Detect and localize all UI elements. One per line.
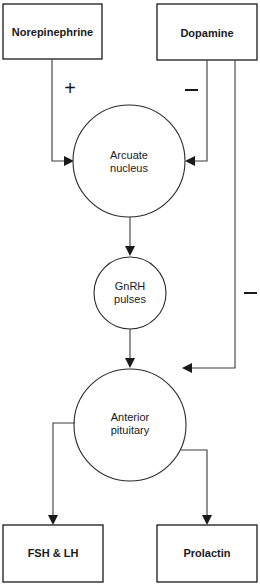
gnrh-pulses-node: GnRH pulses bbox=[94, 257, 166, 329]
norepinephrine-box: Norepinephrine bbox=[3, 4, 102, 59]
minus-sign-text: − bbox=[185, 78, 197, 100]
hormone-regulation-diagram: Norepinephrine Dopamine + − − Arcuate nu… bbox=[0, 0, 260, 586]
edge-dopamine-pituitary: − bbox=[182, 60, 257, 373]
norepinephrine-label: Norepinephrine bbox=[12, 26, 93, 38]
arrowhead-icon bbox=[185, 156, 195, 166]
dopamine-label: Dopamine bbox=[180, 27, 233, 39]
prolactin-label: Prolactin bbox=[183, 547, 230, 559]
arrowhead-icon bbox=[48, 515, 58, 525]
arrowhead-icon bbox=[125, 246, 135, 256]
edge-pituitary-prolactin bbox=[181, 450, 212, 525]
arcuate-nucleus-node: Arcuate nucleus bbox=[73, 105, 185, 217]
edge-arcuate-gnrh bbox=[125, 217, 135, 256]
dopamine-box: Dopamine bbox=[157, 4, 257, 60]
plus-sign: + bbox=[64, 77, 76, 99]
arrowhead-icon bbox=[182, 363, 192, 373]
anterior-label-line2: pituitary bbox=[111, 424, 150, 436]
edge-dopamine-arcuate: − bbox=[185, 60, 207, 166]
prolactin-box: Prolactin bbox=[157, 525, 257, 582]
anterior-label-line1: Anterior bbox=[111, 411, 150, 423]
arrowhead-icon bbox=[125, 358, 135, 368]
arcuate-label-line2: nucleus bbox=[110, 162, 148, 174]
gnrh-label-line1: GnRH bbox=[115, 280, 146, 292]
anterior-pituitary-node: Anterior pituitary bbox=[74, 369, 186, 481]
edge-pituitary-fsh-lh bbox=[48, 423, 75, 525]
edge-norepinephrine-arcuate: + bbox=[52, 59, 76, 166]
arrowhead-icon bbox=[202, 515, 212, 525]
minus-sign-text: − bbox=[244, 281, 256, 303]
gnrh-label-line2: pulses bbox=[114, 293, 146, 305]
edge-gnrh-pituitary bbox=[125, 329, 135, 368]
arcuate-label-line1: Arcuate bbox=[110, 149, 148, 161]
fsh-lh-box: FSH & LH bbox=[3, 525, 103, 582]
fsh-lh-label: FSH & LH bbox=[28, 547, 79, 559]
